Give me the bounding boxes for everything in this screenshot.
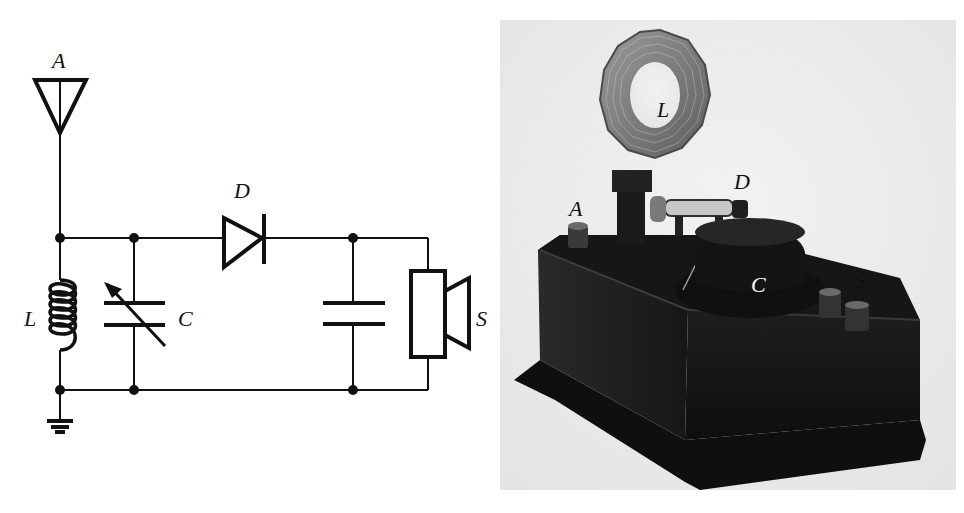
antenna-label: A [50, 48, 66, 73]
diode-label: D [233, 178, 250, 203]
tuning-knob [675, 218, 825, 318]
diode-symbol [224, 214, 264, 267]
antenna-symbol [35, 80, 86, 133]
speaker-label: S [476, 306, 487, 331]
capacitor-label: C [178, 306, 193, 331]
photo-label-coil: L [656, 97, 669, 122]
photo-label-antenna: A [567, 196, 583, 221]
junction-dots [55, 233, 358, 395]
capacitor-symbol [323, 303, 385, 324]
photo-label-tuning-capacitor: C [751, 272, 766, 297]
crystal-radio-photo: L D A C S [500, 20, 956, 490]
inductor-symbol [50, 280, 76, 350]
wires [60, 133, 428, 420]
photo-label-speaker: S [855, 268, 866, 293]
circuit-schematic: A L [0, 0, 500, 513]
photo-label-diode: D [733, 169, 750, 194]
radio-box-front [685, 310, 920, 440]
inductor-label: L [23, 306, 36, 331]
antenna-terminal [568, 222, 588, 248]
ground-icon [47, 421, 73, 432]
speaker-symbol [411, 271, 469, 357]
